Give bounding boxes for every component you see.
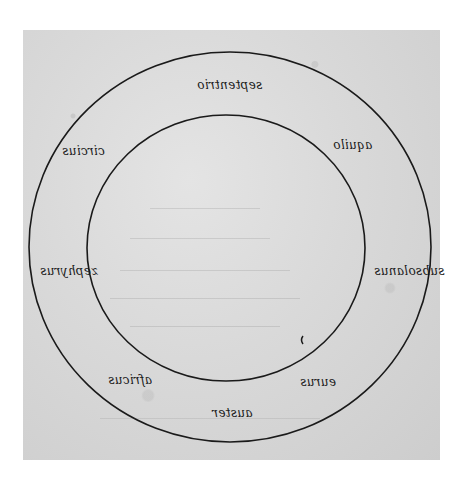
label-top-left: circius [62,144,105,158]
label-bottom: auster [212,406,253,420]
label-top-right: aquilo [333,138,372,152]
inner-circle [87,115,365,381]
label-bottom-right: eurus [300,375,336,389]
faint-text-line [110,290,300,299]
faint-text-line [130,230,270,239]
label-left: zephyrus [40,264,98,278]
label-right: subsolanus [374,264,445,278]
faint-text-line [130,318,280,327]
label-top: septentrio [197,78,262,92]
faint-text-line [150,200,260,209]
ink-mark [302,336,304,344]
faint-text-line [120,262,290,271]
outer-circle [29,52,431,442]
label-bottom-left: africus [108,373,152,387]
faint-text-line [100,410,320,419]
